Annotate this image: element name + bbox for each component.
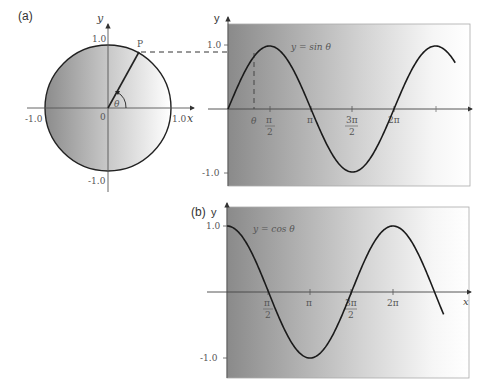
sine-curve-label: y = sin θ <box>290 42 332 52</box>
cosine-graph: y x 1.0 -1.0 π 2 π 3π 2 2π y = cos θ <box>200 203 471 378</box>
cosine-x-axis-label: x <box>463 296 469 307</box>
cosine-3pi-over-2-den: 2 <box>348 310 354 320</box>
circle-x-right-label: 1.0 <box>172 114 187 124</box>
cosine-pi-over-2-num: π <box>264 298 270 308</box>
cosine-y-bottom-label: -1.0 <box>200 353 218 363</box>
cosine-curve-label: y = cos θ <box>252 224 295 234</box>
point-p-label: P <box>137 39 143 49</box>
angle-theta-label: θ <box>114 99 120 109</box>
cosine-pi-label: π <box>306 298 312 308</box>
cosine-y-axis-label: y <box>211 206 217 218</box>
sine-pi-over-2-num: π <box>266 115 272 125</box>
circle-y-axis-label: y <box>96 12 104 25</box>
circle-y-bottom-label: -1.0 <box>88 176 106 186</box>
cosine-pi-over-2-den: 2 <box>265 310 271 320</box>
sine-y-bottom-label: -1.0 <box>202 168 220 178</box>
sine-3pi-over-2-den: 2 <box>349 127 355 137</box>
sine-panel-background <box>228 24 470 186</box>
sine-y-axis-label: y <box>214 12 220 24</box>
panel-b-label: (b) <box>191 205 206 219</box>
sine-pi-label: π <box>307 115 313 125</box>
cosine-2pi-label: 2π <box>387 298 399 308</box>
circle-origin-label: 0 <box>100 112 106 122</box>
panel-a-label: (a) <box>18 9 33 23</box>
trig-figure: (a) θ y x 1.0 -1.0 -1.0 1.0 0 P y 1.0 <box>0 0 492 392</box>
unit-circle-diagram: θ y x 1.0 -1.0 -1.0 1.0 0 P <box>25 12 194 192</box>
sine-y-top-label: 1.0 <box>207 40 222 50</box>
sine-graph: y 1.0 -1.0 θ π 2 π 3π 2 2π y = sin θ <box>202 12 472 186</box>
sine-3pi-over-2-num: 3π <box>346 115 358 125</box>
circle-x-left-label: -1.0 <box>25 114 43 124</box>
sine-pi-over-2-den: 2 <box>267 127 273 137</box>
circle-y-top-label: 1.0 <box>92 34 107 44</box>
sine-theta-tick-label: θ <box>251 116 257 126</box>
circle-x-axis-label: x <box>187 112 194 125</box>
cosine-y-top-label: 1.0 <box>206 221 221 231</box>
